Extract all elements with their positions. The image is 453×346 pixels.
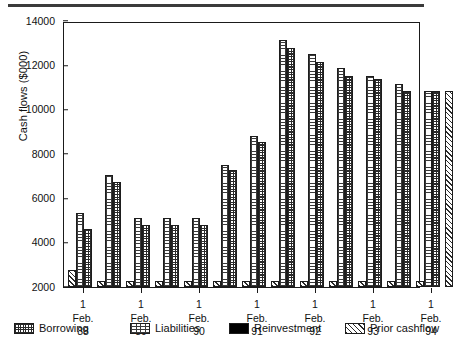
x-tick-label-line: 1 <box>304 298 325 312</box>
legend-label: Liabilities <box>155 322 200 334</box>
chart-legend: BorrowingLiabilitiesReinvestmentPrior ca… <box>14 319 426 337</box>
bar-prior <box>242 281 250 287</box>
bar-liab <box>163 218 171 287</box>
legend-item-prior[interactable]: Prior cashflow <box>345 322 439 334</box>
bar-liab <box>308 54 316 287</box>
x-tick-label-line: 1 <box>188 298 209 312</box>
bar-prior <box>213 281 221 287</box>
bar-borrow <box>287 48 295 287</box>
bar-prior <box>184 281 192 287</box>
bar-borrow <box>374 79 382 287</box>
legend-item-borrow[interactable]: Borrowing <box>14 322 89 334</box>
bar-borrow <box>113 182 121 287</box>
bar-liab <box>395 84 403 287</box>
plot-area: 2000400060008000100001200014000 <box>63 22 420 288</box>
bar-cluster <box>97 23 121 287</box>
bar-liab <box>366 76 374 287</box>
legend-label: Prior cashflow <box>370 322 439 334</box>
bar-liab <box>337 68 345 287</box>
bar-liab <box>76 213 84 287</box>
x-tick-label-line: 1 <box>420 298 441 312</box>
bar-prior <box>387 281 395 287</box>
bar-borrow <box>432 91 440 287</box>
y-tick-label: 12000 <box>26 60 64 71</box>
bar-cluster <box>184 23 208 287</box>
bar-liab <box>424 91 432 287</box>
y-tick-label: 8000 <box>32 149 64 160</box>
bar-groups <box>64 23 419 287</box>
legend-label: Reinvestment <box>254 322 321 334</box>
top-divider-rule <box>8 4 424 7</box>
bar-prior <box>445 91 453 287</box>
x-tick-label-line: 1 <box>130 298 151 312</box>
bar-prior <box>126 281 134 287</box>
x-tick-label-line: 1 <box>362 298 383 312</box>
bar-cluster <box>155 23 179 287</box>
bar-borrow <box>84 229 92 287</box>
bar-borrow <box>345 76 353 287</box>
legend-label: Borrowing <box>39 322 89 334</box>
bar-borrow <box>200 225 208 287</box>
bar-borrow <box>229 170 237 287</box>
bar-borrow <box>258 142 266 287</box>
bar-prior <box>416 281 424 287</box>
bar-prior <box>155 281 163 287</box>
bar-cluster <box>213 23 237 287</box>
bar-prior <box>271 281 279 287</box>
y-tick-label: 10000 <box>26 104 64 115</box>
y-tick-label: 2000 <box>32 282 64 293</box>
bar-prior <box>358 281 366 287</box>
x-tick-label-line: 1 <box>72 298 93 312</box>
bar-liab <box>279 40 287 287</box>
bar-cluster <box>271 23 295 287</box>
bar-liab <box>134 218 142 287</box>
bar-liab <box>192 218 200 287</box>
bar-borrow <box>171 225 179 287</box>
bar-liab <box>105 175 113 287</box>
bar-liab <box>250 136 258 287</box>
bar-borrow <box>403 91 411 287</box>
bar-cluster <box>358 23 382 287</box>
legend-swatch-borrow-icon <box>14 323 34 334</box>
bar-borrow <box>316 62 324 287</box>
legend-item-liab[interactable]: Liabilities <box>130 322 200 334</box>
y-tick-label: 6000 <box>32 193 64 204</box>
legend-swatch-prior-icon <box>345 323 365 334</box>
bar-cluster <box>68 23 92 287</box>
legend-item-reinv[interactable]: Reinvestment <box>229 322 321 334</box>
bar-prior <box>97 281 105 287</box>
bar-cluster <box>445 23 453 287</box>
bar-cluster <box>126 23 150 287</box>
bar-prior <box>300 281 308 287</box>
y-axis-title: Cash flows ($000) <box>17 11 29 181</box>
bar-cluster <box>300 23 324 287</box>
bar-cluster <box>416 23 440 287</box>
bar-prior <box>68 270 76 287</box>
y-tick-label: 14000 <box>26 16 64 27</box>
bar-liab <box>221 165 229 287</box>
bar-cluster <box>387 23 411 287</box>
bar-cluster <box>329 23 353 287</box>
legend-swatch-reinv-icon <box>229 323 249 334</box>
y-tick-label: 4000 <box>32 237 64 248</box>
bar-prior <box>329 281 337 287</box>
bar-borrow <box>142 225 150 287</box>
bar-cluster <box>242 23 266 287</box>
x-tick-label-line: 1 <box>246 298 267 312</box>
legend-swatch-liab-icon <box>130 323 150 334</box>
x-tick-mark <box>431 288 432 293</box>
y-tick-mark <box>63 21 68 22</box>
